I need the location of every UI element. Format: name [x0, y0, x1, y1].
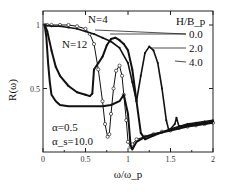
data-point	[101, 100, 104, 103]
annotation-alpha-s: α_s=10.0	[52, 135, 93, 147]
data-point	[75, 25, 78, 28]
annotation-n4: N=4	[88, 13, 108, 25]
data-point	[110, 41, 112, 43]
data-point	[123, 43, 125, 45]
data-point	[161, 88, 163, 90]
data-point	[157, 62, 159, 64]
annotation-n12: N=12	[62, 38, 87, 50]
data-point	[119, 39, 121, 41]
data-point	[144, 138, 146, 140]
data-point	[76, 28, 78, 30]
x-tick-label: 0	[41, 155, 45, 164]
data-point	[85, 94, 87, 96]
reflectance-chart: 00.511.520.51 ω/ω_p R(ω) N=4 N=12 α=0.5 …	[0, 0, 229, 194]
data-point	[46, 30, 48, 32]
data-point	[144, 52, 146, 54]
data-point	[187, 123, 189, 125]
data-point	[175, 117, 177, 119]
data-point	[174, 123, 176, 125]
data-point	[85, 30, 87, 32]
x-axis-label: ω/ω_p	[114, 168, 143, 180]
x-tick-label: 2	[211, 155, 215, 164]
data-point	[148, 46, 150, 48]
data-point	[76, 91, 78, 93]
data-point	[125, 119, 128, 122]
data-point	[103, 122, 106, 125]
data-point	[131, 68, 133, 70]
data-point	[153, 49, 155, 51]
data-point	[91, 93, 93, 95]
data-point	[204, 121, 206, 123]
data-point	[102, 37, 104, 39]
y-axis-label: R(ω)	[6, 79, 19, 101]
data-point	[178, 126, 180, 128]
data-point	[170, 128, 172, 130]
data-point	[106, 44, 108, 46]
data-point	[102, 56, 104, 58]
data-point	[140, 75, 142, 77]
data-point	[140, 132, 142, 134]
x-tick-label: 1.5	[166, 155, 176, 164]
data-point	[195, 122, 197, 124]
data-point	[93, 68, 95, 70]
data-point	[136, 100, 138, 102]
data-point	[168, 129, 170, 131]
data-point	[119, 47, 121, 49]
data-point	[92, 42, 95, 45]
data-point	[84, 27, 87, 30]
data-point	[59, 25, 61, 27]
y-tick-label: 0.5	[30, 85, 40, 94]
data-point	[127, 49, 129, 51]
data-point	[212, 119, 214, 121]
data-point	[68, 85, 70, 87]
data-point	[110, 38, 112, 40]
legend-entry-2: 2.0	[189, 42, 203, 54]
data-point	[127, 62, 129, 64]
data-point	[120, 74, 123, 77]
data-point	[153, 134, 155, 136]
data-point	[109, 112, 112, 115]
data-point	[93, 33, 95, 35]
data-point	[51, 49, 53, 51]
x-tick-label: 1	[126, 155, 130, 164]
data-point	[114, 37, 116, 39]
legend-leader-line	[95, 30, 186, 34]
data-point	[89, 95, 91, 97]
data-point	[118, 64, 121, 67]
data-point	[55, 66, 57, 68]
data-point	[67, 23, 70, 26]
annotation-alpha: α=0.5	[52, 121, 78, 133]
data-point	[59, 75, 61, 77]
data-point	[108, 133, 111, 136]
legend-entry-3: 4.0	[189, 56, 203, 68]
data-point	[112, 87, 115, 90]
data-point	[68, 27, 70, 29]
legend-leader-line	[175, 61, 186, 62]
x-tick-label: 0.5	[81, 155, 91, 164]
legend-entry-1: 0.0	[189, 28, 203, 40]
data-point	[126, 140, 129, 143]
data-point	[165, 119, 167, 121]
data-point	[131, 81, 133, 83]
data-point	[51, 25, 53, 27]
y-tick-label: 1	[36, 21, 40, 30]
data-point	[97, 62, 99, 64]
legend-title: H/B_p	[176, 15, 206, 27]
data-point	[115, 69, 118, 72]
data-point	[97, 68, 100, 71]
